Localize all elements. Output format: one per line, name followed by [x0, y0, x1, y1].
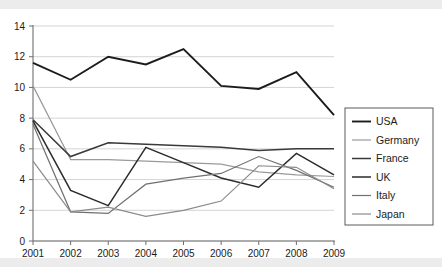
legend-label-uk: UK [376, 171, 391, 183]
chart-screenshot: 02468101214 2001200220032004200520062007… [0, 0, 442, 267]
series-line-italy [33, 124, 334, 213]
y-tick-label-6: 6 [19, 143, 25, 154]
x-tick-label-2004: 2004 [135, 248, 158, 258]
y-tick-label-4: 4 [19, 174, 25, 185]
y-tick-label-14: 14 [14, 21, 26, 32]
x-tick-label-2002: 2002 [60, 248, 83, 258]
y-tick-label-10: 10 [14, 82, 26, 93]
series-line-uk [33, 121, 334, 205]
x-tick-label-2003: 2003 [97, 248, 120, 258]
x-tick-label-2007: 2007 [248, 248, 271, 258]
x-tick-label-2005: 2005 [172, 248, 195, 258]
legend-label-japan: Japan [376, 208, 405, 220]
gridlines-group [33, 26, 334, 241]
chart-area: 02468101214 2001200220032004200520062007… [0, 9, 442, 258]
series-line-japan [33, 161, 334, 216]
x-tick-label-2001: 2001 [22, 248, 45, 258]
x-tick-labels-group: 200120022003200420052006200720082009 [22, 248, 346, 258]
y-tick-labels-group: 02468101214 [14, 21, 26, 247]
legend-label-france: France [376, 152, 409, 164]
axes-group [33, 25, 335, 241]
bottom-band [0, 258, 442, 267]
legend-label-italy: Italy [376, 189, 396, 201]
y-tick-label-12: 12 [14, 51, 26, 62]
chart-legend: USAGermanyFranceUKItalyJapan [345, 108, 433, 225]
x-tick-label-2008: 2008 [285, 248, 308, 258]
line-chart: 02468101214 2001200220032004200520062007… [0, 9, 442, 258]
y-tick-label-2: 2 [19, 205, 25, 216]
legend-label-germany: Germany [376, 134, 420, 146]
top-band [0, 0, 442, 9]
x-tick-label-2009: 2009 [323, 248, 346, 258]
series-line-france [33, 120, 334, 157]
series-line-usa [33, 49, 334, 115]
y-tick-marks-group [29, 26, 33, 241]
legend-label-usa: USA [376, 115, 398, 127]
x-tick-label-2006: 2006 [210, 248, 233, 258]
series-lines-group [33, 49, 334, 216]
x-tick-marks-group [33, 241, 334, 245]
y-tick-label-8: 8 [19, 113, 25, 124]
y-tick-label-0: 0 [19, 236, 25, 247]
